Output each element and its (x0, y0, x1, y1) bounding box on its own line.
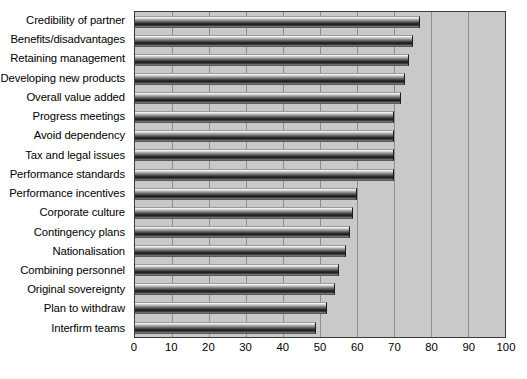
bar-row (135, 146, 505, 165)
bar-row (135, 299, 505, 318)
value-tick-label: 70 (388, 342, 401, 353)
bar-row (135, 184, 505, 203)
category-label: Performance incentives (0, 184, 130, 203)
bar (135, 264, 339, 276)
value-tick-label: 20 (202, 342, 215, 353)
bar-series (135, 12, 505, 337)
bar (135, 245, 346, 257)
bar-chart: Credibility of partnerBenefits/disadvant… (0, 0, 527, 379)
category-label: Benefits/disadvantages (0, 30, 130, 49)
bar (135, 226, 350, 238)
value-tick-label: 50 (314, 342, 327, 353)
category-label: Plan to withdraw (0, 300, 130, 319)
category-label: Contingency plans (0, 223, 130, 242)
value-axis-labels: 0102030405060708090100 (134, 342, 506, 362)
bar-row (135, 318, 505, 337)
category-label: Nationalisation (0, 242, 130, 261)
bar-row (135, 89, 505, 108)
value-tick-label: 90 (463, 342, 476, 353)
bar (135, 188, 357, 200)
value-tick-label: 80 (425, 342, 438, 353)
bar (135, 169, 394, 181)
bar (135, 54, 409, 66)
bar-row (135, 165, 505, 184)
value-tick-label: 30 (239, 342, 252, 353)
bar-row (135, 242, 505, 261)
bar-row (135, 261, 505, 280)
category-label: Interfirm teams (0, 319, 130, 338)
plot-area (134, 11, 506, 338)
category-label: Credibility of partner (0, 11, 130, 30)
category-label: Retaining management (0, 49, 130, 68)
value-tick-label: 60 (351, 342, 364, 353)
bar (135, 35, 413, 47)
category-label: Performance standards (0, 165, 130, 184)
bar-row (135, 69, 505, 88)
value-tick-label: 10 (165, 342, 178, 353)
category-axis-labels: Credibility of partnerBenefits/disadvant… (0, 11, 130, 338)
category-label: Progress meetings (0, 107, 130, 126)
category-label: Developing new products (0, 69, 130, 88)
category-label: Tax and legal issues (0, 146, 130, 165)
bar-row (135, 12, 505, 31)
bar (135, 283, 335, 295)
bar-row (135, 108, 505, 127)
bar (135, 92, 401, 104)
category-label: Corporate culture (0, 203, 130, 222)
bar-row (135, 127, 505, 146)
value-tick-label: 0 (131, 342, 137, 353)
bar (135, 111, 394, 123)
category-label: Overall value added (0, 88, 130, 107)
bar (135, 322, 316, 334)
bar-row (135, 222, 505, 241)
category-label: Original sovereignty (0, 280, 130, 299)
bar (135, 207, 353, 219)
bar-row (135, 280, 505, 299)
bar-row (135, 31, 505, 50)
category-label: Combining personnel (0, 261, 130, 280)
value-tick-label: 100 (497, 342, 516, 353)
bar (135, 73, 405, 85)
bar (135, 16, 420, 28)
bar (135, 302, 327, 314)
category-label: Avoid dependency (0, 126, 130, 145)
bar (135, 130, 394, 142)
bar-row (135, 50, 505, 69)
bar-row (135, 203, 505, 222)
value-tick-label: 40 (277, 342, 290, 353)
bar (135, 149, 394, 161)
